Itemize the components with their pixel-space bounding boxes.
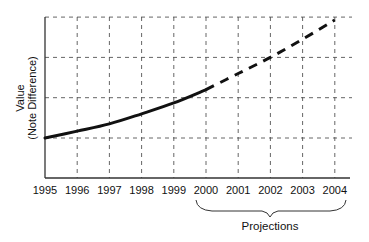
x-tick-label: 2002 [258, 184, 282, 196]
grid-lines [45, 17, 352, 178]
projections-label: Projections [242, 220, 299, 232]
x-tick-label: 1996 [65, 184, 89, 196]
projected-series-line [206, 20, 335, 90]
x-tick-label: 1999 [162, 184, 186, 196]
x-tick-label: 1998 [129, 184, 153, 196]
y-axis-label: Value (Note Difference) [14, 56, 38, 140]
x-tick-label: 2001 [226, 184, 250, 196]
actual-series-line [45, 90, 206, 138]
projections-brace [196, 200, 346, 217]
line-chart: 1995199619971998199920002001200220032004… [0, 0, 369, 242]
x-tick-label: 2004 [323, 184, 347, 196]
x-tick-label: 1997 [97, 184, 121, 196]
x-tick-label: 2000 [194, 184, 218, 196]
x-tick-label: 1995 [33, 184, 57, 196]
x-tick-label: 2003 [290, 184, 314, 196]
x-tick-labels: 1995199619971998199920002001200220032004 [33, 184, 347, 196]
y-axis-label-line1: Value [14, 84, 26, 111]
y-axis-label-line2: (Note Difference) [26, 56, 38, 140]
